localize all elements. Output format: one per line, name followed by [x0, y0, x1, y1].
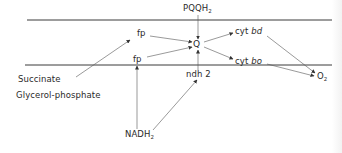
diagram-canvas: PQQH2 Q fp fp ndh 2 cyt bd cyt bo O2 Suc… — [0, 0, 342, 153]
arrow-fp-upper-to-q — [150, 36, 192, 42]
label-succinate: Succinate — [18, 75, 61, 84]
label-nadh2: NADH2 — [125, 130, 154, 141]
arrow-cyt-bd-to-o2 — [267, 36, 315, 73]
o2-text: O — [317, 71, 324, 81]
label-ndh2: ndh 2 — [186, 70, 211, 79]
cyt-bo-italic: bo — [251, 56, 262, 66]
arrow-succinate-to-fp-upper — [76, 40, 130, 77]
label-pqqh2: PQQH2 — [183, 4, 212, 15]
arrow-q-to-cyt-bo — [204, 47, 233, 59]
label-cyt-bd: cyt bd — [235, 27, 262, 36]
cyt-bd-italic: bd — [251, 26, 262, 36]
nadh2-text: NADH — [125, 129, 151, 139]
label-glycerol-phosphate: Glycerol-phosphate — [16, 91, 101, 100]
o2-subscript: 2 — [324, 76, 328, 82]
cyt-bd-prefix: cyt — [235, 26, 251, 36]
label-cyt-bo: cyt bo — [235, 57, 262, 66]
pqqh2-subscript: 2 — [208, 8, 212, 14]
label-q: Q — [193, 40, 200, 49]
label-o2: O2 — [317, 72, 327, 83]
label-fp-lower: fp — [133, 55, 142, 64]
arrow-nadh2-to-ndh2 — [153, 80, 197, 130]
arrow-fp-lower-to-q — [147, 47, 192, 57]
pqqh2-text: PQQH — [183, 3, 208, 13]
nadh2-subscript: 2 — [151, 134, 155, 140]
right-edge-shade — [332, 0, 342, 153]
arrow-cyt-bo-to-o2 — [267, 64, 314, 76]
label-fp-upper: fp — [137, 29, 146, 38]
arrow-q-to-cyt-bd — [204, 33, 233, 42]
cyt-bo-prefix: cyt — [235, 56, 251, 66]
